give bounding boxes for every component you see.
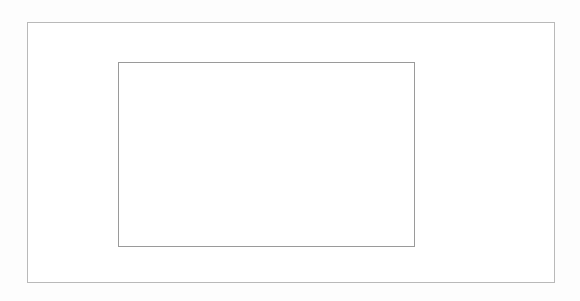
figure-root	[0, 0, 580, 301]
plot-area	[118, 62, 415, 247]
y-axis	[0, 0, 118, 301]
